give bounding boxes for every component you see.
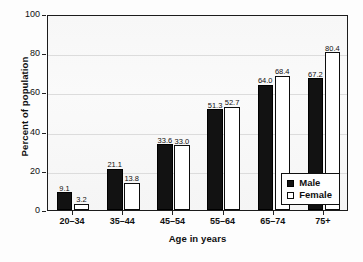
x-tick-label: 55–64 [210, 217, 235, 226]
bar-female-35–44: 13.8 [124, 183, 140, 210]
x-tick-mark [323, 211, 324, 215]
bar-value-label: 64.0 [258, 77, 273, 85]
x-tick-mark [172, 211, 173, 215]
bar-value-label: 68.4 [275, 68, 290, 76]
x-axis-title: Age in years [47, 233, 348, 244]
y-tick-mark [42, 211, 46, 212]
x-tick-label: 75+ [315, 217, 330, 226]
bar-group: 21.113.8 [107, 16, 140, 210]
bar-female-20–34: 3.2 [74, 204, 90, 210]
x-tick-mark [273, 211, 274, 215]
legend-label-male: Male [299, 178, 320, 188]
y-tick-mark [42, 15, 46, 16]
bar-value-label: 9.1 [59, 185, 69, 193]
legend-item-female: Female [287, 189, 332, 201]
x-axis-tick-labels: 20–3435–4445–5455–6465–7475+ [47, 217, 348, 231]
y-tick-mark [42, 54, 46, 55]
bar-chart-figure: Percent of population 020406080100 9.13.… [0, 0, 363, 262]
y-tick-mark [42, 172, 46, 173]
bar-value-label: 33.0 [175, 138, 190, 146]
bar-female-55–64: 52.7 [224, 107, 240, 210]
legend-swatch-female-icon [287, 192, 294, 199]
y-tick-mark [42, 93, 46, 94]
bar-male-55–64: 51.3 [207, 109, 223, 210]
legend-label-female: Female [299, 190, 332, 200]
y-tick-label: 80 [16, 49, 40, 58]
y-tick-mark [42, 133, 46, 134]
x-tick-mark [122, 211, 123, 215]
bar-value-label: 21.1 [107, 161, 122, 169]
x-tick-label: 35–44 [110, 217, 135, 226]
bar-male-20–34: 9.1 [57, 192, 73, 210]
bar-group: 51.352.7 [207, 16, 240, 210]
bar-value-label: 3.2 [76, 196, 86, 204]
x-tick-label: 20–34 [60, 217, 85, 226]
plot-area: 9.13.221.113.833.633.051.352.764.068.467… [47, 15, 348, 211]
x-tick-mark [72, 211, 73, 215]
legend-item-male: Male [287, 177, 332, 189]
bar-value-label: 33.6 [158, 137, 173, 145]
y-tick-label: 40 [16, 128, 40, 137]
x-tick-label: 65–74 [260, 217, 285, 226]
bar-male-45–54: 33.6 [157, 144, 173, 210]
legend-swatch-male-icon [287, 180, 294, 187]
bar-male-65–74: 64.0 [258, 85, 274, 210]
x-tick-label: 45–54 [160, 217, 185, 226]
bar-value-label: 13.8 [124, 175, 139, 183]
bar-group: 33.633.0 [157, 16, 190, 210]
legend: Male Female [281, 173, 340, 205]
x-axis-tick-marks [47, 211, 348, 216]
y-tick-label: 60 [16, 88, 40, 97]
bar-value-label: 80.4 [325, 45, 340, 53]
bar-male-35–44: 21.1 [107, 169, 123, 210]
y-tick-label: 0 [16, 206, 40, 215]
y-axis-tick-labels: 020406080100 [14, 0, 40, 262]
bar-value-label: 52.7 [225, 99, 240, 107]
bar-group: 9.13.2 [57, 16, 90, 210]
bar-value-label: 51.3 [208, 102, 223, 110]
y-tick-label: 100 [16, 10, 40, 19]
bar-value-label: 67.2 [308, 71, 323, 79]
y-tick-label: 20 [16, 167, 40, 176]
bar-female-45–54: 33.0 [174, 145, 190, 210]
x-tick-mark [223, 211, 224, 215]
